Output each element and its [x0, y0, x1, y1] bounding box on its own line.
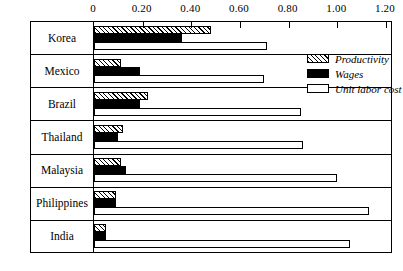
x-axis-tick	[191, 22, 192, 28]
bar-group	[93, 155, 391, 188]
bar-wages	[94, 232, 106, 240]
x-axis-tick	[143, 22, 144, 28]
category-label: Mexico	[31, 65, 93, 78]
bar-productivity	[94, 224, 106, 232]
bar-unit-labor-cost	[94, 207, 369, 215]
legend-item: Productivity	[307, 52, 403, 66]
bar-productivity	[94, 26, 211, 34]
plot-area: KoreaMexicoBrazilThailandMalaysiaPhilipp…	[30, 21, 392, 253]
chart-row: Philippines	[31, 188, 391, 221]
bar-group	[93, 188, 391, 221]
bar-wages	[94, 100, 140, 108]
bar-group	[93, 22, 391, 55]
bar-productivity	[94, 92, 148, 100]
legend-swatch-wages	[307, 69, 329, 78]
x-axis-tick-label: 0	[90, 2, 96, 14]
legend-swatch-productivity	[307, 54, 329, 63]
x-axis-tick-label: 0.80	[278, 2, 298, 14]
x-axis-tick-label: 0.60	[229, 2, 249, 14]
legend-label: Wages	[335, 67, 363, 81]
bar-group	[93, 121, 391, 154]
legend-label: Productivity	[335, 52, 389, 66]
category-label: Malaysia	[31, 164, 93, 177]
bar-wages	[94, 166, 126, 174]
bar-productivity	[94, 158, 121, 166]
bar-wages	[94, 133, 118, 141]
legend-item: Wages	[307, 67, 403, 81]
bar-productivity	[94, 191, 116, 199]
bar-unit-labor-cost	[94, 108, 301, 116]
bar-unit-labor-cost	[94, 174, 337, 182]
bar-unit-labor-cost	[94, 42, 267, 50]
category-label: Korea	[31, 32, 93, 45]
category-label: Thailand	[31, 131, 93, 144]
bar-productivity	[94, 125, 123, 133]
bar-productivity	[94, 59, 121, 67]
category-label: India	[31, 230, 93, 243]
x-axis-tick	[386, 22, 387, 28]
x-axis-tick	[289, 22, 290, 28]
legend-item: Unit labor cost	[307, 82, 403, 96]
chart-legend: ProductivityWagesUnit labor cost	[307, 52, 403, 97]
x-axis-tick-label: 0.20	[132, 2, 152, 14]
bar-wages	[94, 199, 116, 207]
bar-unit-labor-cost	[94, 141, 303, 149]
category-label: Brazil	[31, 98, 93, 111]
x-axis-tick	[240, 22, 241, 28]
legend-swatch-ulc	[307, 84, 329, 93]
legend-label: Unit labor cost	[335, 82, 402, 96]
x-axis-tick-label: 1.00	[326, 2, 346, 14]
x-axis: 00.200.400.600.801.001.20	[0, 0, 403, 22]
chart-row: Thailand	[31, 121, 391, 154]
chart-row: Malaysia	[31, 155, 391, 188]
x-axis-tick-label: 0.40	[180, 2, 200, 14]
bar-wages	[94, 34, 182, 42]
bar-unit-labor-cost	[94, 75, 264, 83]
category-label: Philippines	[31, 197, 93, 210]
chart-row: India	[31, 221, 391, 254]
bar-wages	[94, 67, 140, 75]
x-axis-tick	[337, 22, 338, 28]
x-axis-tick-label: 1.20	[375, 2, 395, 14]
bar-group	[93, 221, 391, 254]
bar-unit-labor-cost	[94, 240, 350, 248]
bar-chart: 00.200.400.600.801.001.20 KoreaMexicoBra…	[0, 0, 403, 271]
